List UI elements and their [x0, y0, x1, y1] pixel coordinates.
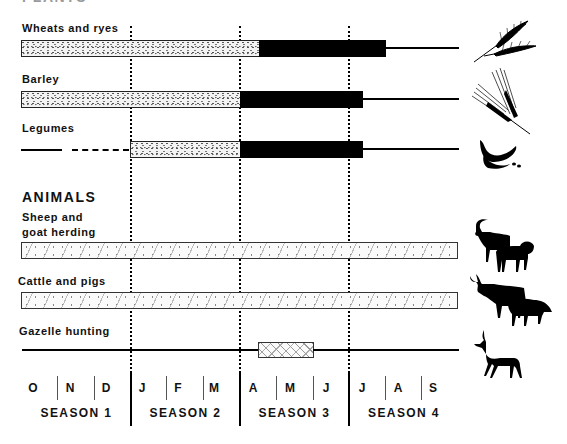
season-1-label: SEASON 1 — [22, 406, 131, 420]
sheep-herding-bar — [21, 242, 458, 259]
barley-icon — [472, 68, 532, 136]
month-tick — [313, 376, 314, 400]
season-2-label: SEASON 2 — [131, 406, 240, 420]
wheat-growing-bar — [21, 40, 260, 57]
month-jul: J — [352, 381, 372, 395]
month-mar: M — [204, 381, 224, 395]
gazelle-line-end — [313, 349, 459, 351]
month-tick — [421, 376, 422, 400]
gazelle-line-start — [22, 349, 258, 351]
month-jan: J — [132, 381, 152, 395]
month-tick — [94, 376, 95, 400]
gazelle-icon — [472, 330, 524, 380]
gazelle-hunting-bar — [258, 342, 314, 358]
month-feb: F — [168, 381, 188, 395]
legumes-dashed-line — [72, 149, 129, 151]
cattle-pigs-bar — [21, 292, 458, 309]
month-oct: O — [23, 381, 43, 395]
legumes-line-end — [363, 148, 459, 150]
barley-line — [363, 98, 459, 100]
month-tick — [385, 376, 386, 400]
month-tick — [166, 376, 167, 400]
legumes-line-start — [21, 149, 62, 151]
barley-growing-bar — [21, 91, 241, 108]
wheat-label: Wheats and ryes — [22, 21, 118, 36]
month-dec: D — [96, 381, 116, 395]
month-nov: N — [60, 381, 80, 395]
wheat-line — [386, 47, 459, 49]
sheep-label-line1: Sheep and — [22, 210, 96, 225]
cattle-label: Cattle and pigs — [18, 274, 106, 289]
animals-heading: ANIMALS — [22, 189, 96, 205]
month-may: M — [280, 381, 300, 395]
season-divider-3 — [348, 26, 350, 373]
plants-heading: PLANTS — [22, 0, 87, 5]
season-divider-2 — [239, 26, 241, 373]
month-tick — [276, 376, 277, 400]
legumes-growing-bar — [130, 141, 241, 158]
season-4-label: SEASON 4 — [349, 406, 459, 420]
season-divider-1 — [130, 26, 132, 373]
month-aug: A — [388, 381, 408, 395]
wheat-icon — [470, 20, 540, 70]
month-sep: S — [423, 381, 443, 395]
month-apr: A — [243, 381, 263, 395]
goat-sheep-icon — [470, 218, 540, 278]
sheep-label: Sheep and goat herding — [22, 210, 96, 240]
cattle-pig-icon — [468, 272, 554, 328]
wheat-harvest-bar — [259, 40, 386, 57]
legumes-label: Legumes — [22, 121, 75, 136]
barley-harvest-bar — [240, 91, 363, 108]
month-jun: J — [316, 381, 336, 395]
season-3-label: SEASON 3 — [240, 406, 349, 420]
legumes-harvest-bar — [240, 141, 363, 158]
gazelle-label: Gazelle hunting — [19, 324, 110, 339]
sheep-label-line2: goat herding — [22, 225, 96, 240]
legume-pod-icon — [478, 138, 524, 174]
month-tick — [57, 376, 58, 400]
barley-label: Barley — [22, 72, 59, 87]
